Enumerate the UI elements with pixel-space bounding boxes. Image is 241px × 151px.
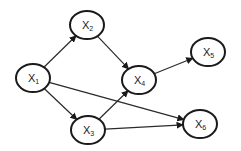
node-x6: X6: [183, 110, 217, 138]
node-x3: X3: [71, 116, 105, 144]
node-x1: X1: [16, 64, 50, 92]
node-x4: X4: [122, 66, 156, 94]
node-x2: X2: [70, 11, 104, 39]
edge-x2-to-x4: [97, 36, 128, 69]
nodes-layer: X1X2X3X4X5X6: [16, 11, 225, 144]
edges-layer: [44, 36, 193, 129]
edge-x1-to-x6: [49, 82, 184, 119]
graph-canvas: X1X2X3X4X5X6: [0, 0, 241, 151]
edge-x3-to-x4: [99, 91, 128, 120]
edge-x3-to-x6: [105, 125, 183, 129]
edge-x1-to-x2: [44, 36, 76, 68]
edge-x1-to-x3: [44, 89, 77, 120]
edge-x4-to-x5: [154, 58, 193, 74]
node-x5: X5: [191, 38, 225, 66]
